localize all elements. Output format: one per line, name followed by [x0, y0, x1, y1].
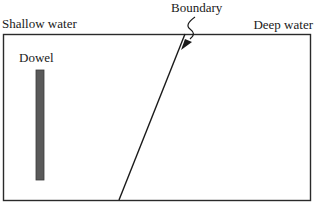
boundary-pointer-leader [188, 17, 195, 39]
deep-water-label: Deep water [253, 17, 313, 32]
boundary-label: Boundary [171, 0, 222, 15]
dowel-label: Dowel [19, 50, 54, 65]
boundary-line [119, 34, 185, 200]
shallow-water-label: Shallow water [2, 16, 77, 31]
dowel [36, 70, 44, 180]
